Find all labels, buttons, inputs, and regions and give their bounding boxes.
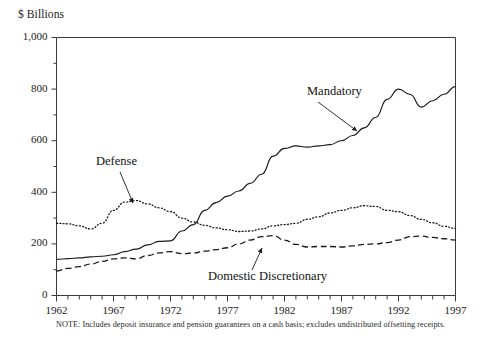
x-tick-label: 1987 xyxy=(331,304,354,316)
y-axis-ticks: 02004006008001,000 xyxy=(23,30,57,300)
x-tick-label: 1972 xyxy=(160,304,182,316)
series-line-mandatory xyxy=(57,87,456,260)
line-chart: 02004006008001,000 196219671972197719821… xyxy=(0,0,482,340)
annotation-arrow-domestic-discretionary xyxy=(252,248,262,270)
chart-footnote: NOTE: Includes deposit insurance and pen… xyxy=(56,320,445,329)
annotation-arrow-mandatory xyxy=(318,102,357,131)
y-tick-label: 0 xyxy=(42,288,48,300)
x-tick-label: 1977 xyxy=(217,304,240,316)
data-series-group xyxy=(57,87,456,271)
x-tick-label: 1992 xyxy=(388,304,410,316)
annotation-label-mandatory: Mandatory xyxy=(307,84,363,98)
y-tick-label: 400 xyxy=(31,185,48,197)
x-tick-label: 1982 xyxy=(274,304,296,316)
x-tick-label: 1967 xyxy=(103,304,126,316)
annotation-label-domestic-discretionary: Domestic Discretionary xyxy=(208,269,328,283)
y-tick-label: 600 xyxy=(31,133,48,145)
x-tick-label: 1962 xyxy=(46,304,68,316)
series-annotations: MandatoryDefenseDomestic Discretionary xyxy=(96,84,363,283)
y-tick-label: 800 xyxy=(31,82,48,94)
x-tick-label: 1997 xyxy=(445,304,468,316)
series-line-defense xyxy=(57,201,456,232)
y-tick-label: 1,000 xyxy=(23,30,48,42)
annotation-label-defense: Defense xyxy=(96,154,137,168)
y-tick-label: 200 xyxy=(31,236,48,248)
annotation-arrow-defense xyxy=(120,172,133,203)
figure-container: $ Billions 02004006008001,000 1962196719… xyxy=(0,0,482,340)
series-line-domestic-discretionary xyxy=(57,236,456,271)
x-axis-ticks: 19621967197219771982198719921997 xyxy=(46,296,468,316)
